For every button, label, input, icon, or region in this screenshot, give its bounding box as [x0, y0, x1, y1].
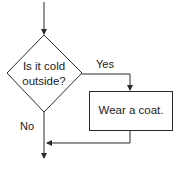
process-text: Wear a coat.: [90, 103, 172, 118]
decision-line-2: outside?: [9, 74, 79, 89]
decision-line-1: Is it cold: [9, 59, 79, 74]
yes-edge: [82, 74, 130, 90]
no-label: No: [20, 120, 34, 133]
decision-text: Is it cold outside?: [9, 59, 79, 89]
yes-label: Yes: [96, 58, 114, 71]
return-edge: [47, 131, 130, 143]
